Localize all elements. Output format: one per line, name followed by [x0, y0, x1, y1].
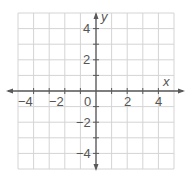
y-tick-label-minus-4: −4	[76, 146, 91, 161]
x-axis-label: x	[162, 74, 170, 89]
x-tick-label-2: 2	[124, 94, 131, 109]
coordinate-plane: y x 0 −4 −2 2 4 4 2 −2 −4	[0, 0, 191, 187]
y-tick-label-minus-2: −2	[76, 115, 91, 130]
x-tick-label-4: 4	[155, 94, 162, 109]
x-axis-left-arrow-icon	[6, 89, 13, 94]
y-tick-label-2: 2	[83, 52, 90, 67]
x-tick-label-minus-4: −4	[18, 94, 33, 109]
y-axis-label: y	[100, 9, 109, 24]
origin-label: 0	[84, 94, 91, 109]
x-axis-right-arrow-icon	[178, 89, 185, 94]
x-tick-label-minus-2: −2	[49, 94, 64, 109]
y-axis-down-arrow-icon	[94, 164, 99, 171]
y-tick-label-4: 4	[83, 21, 90, 36]
